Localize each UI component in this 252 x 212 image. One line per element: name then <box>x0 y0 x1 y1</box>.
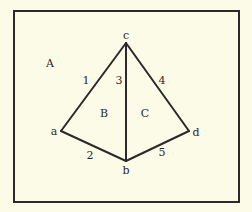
face-label-B: B <box>100 107 108 120</box>
edge-1-line <box>61 43 126 131</box>
edge-2-line <box>61 131 126 161</box>
edge-label-1: 1 <box>83 74 90 87</box>
vertex-label-b: b <box>122 164 129 177</box>
edge-label-3: 3 <box>116 74 123 87</box>
face-label-C: C <box>141 107 149 120</box>
face-label-A: A <box>45 57 55 70</box>
edges-group <box>61 43 189 161</box>
vertex-label-d: d <box>192 126 199 139</box>
edge-label-2: 2 <box>87 149 94 162</box>
face-labels-group: ABC <box>45 57 149 120</box>
planar-graph-diagram: abcd 12345 ABC <box>0 0 252 212</box>
edge-label-4: 4 <box>159 74 166 87</box>
vertex-label-c: c <box>123 29 129 42</box>
edge-label-5: 5 <box>159 146 166 159</box>
edge-4-line <box>126 43 189 131</box>
vertex-label-a: a <box>51 125 58 138</box>
edge-5-line <box>126 131 189 161</box>
